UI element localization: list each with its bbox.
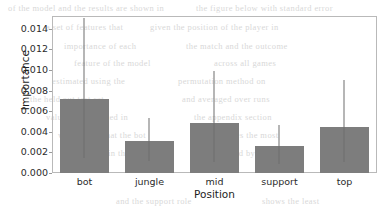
y-axis-tick-label: 0.004: [0, 127, 48, 137]
x-axis-label: Position: [52, 188, 377, 200]
bar-group: [255, 16, 304, 173]
x-axis-tick-label-jungle: jungle: [117, 176, 182, 187]
plot-area: [52, 16, 377, 173]
y-axis-tick-label: 0.012: [0, 44, 48, 54]
y-axis-tick-label: 0.002: [0, 147, 48, 157]
error-bar-mid: [214, 71, 215, 162]
bar-group: [125, 16, 174, 173]
y-axis-tick-label: 0.014: [0, 24, 48, 34]
y-axis-tick-label: 0.008: [0, 86, 48, 96]
y-axis-tick-label: 0.010: [0, 65, 48, 75]
y-axis-label-text: Importance: [19, 50, 31, 110]
bar-group: [320, 16, 369, 173]
x-axis-tick-label-top: top: [312, 176, 377, 187]
error-bar-bot: [84, 18, 85, 158]
bar-chart-figure: Importance 0.0000.0020.0040.0060.0080.01…: [0, 0, 391, 210]
x-axis-tick-label-mid: mid: [182, 176, 247, 187]
x-axis-tick-label-support: support: [247, 176, 312, 187]
bar-group: [190, 16, 239, 173]
error-bar-top: [344, 80, 345, 161]
bar-group: [60, 16, 109, 173]
x-axis-tick-label-bot: bot: [52, 176, 117, 187]
y-axis-tick-label: 0.000: [0, 168, 48, 178]
error-bar-jungle: [149, 118, 150, 160]
y-axis-tick-label: 0.006: [0, 106, 48, 116]
error-bar-support: [279, 125, 280, 164]
y-axis-tick-mark: [49, 173, 52, 174]
